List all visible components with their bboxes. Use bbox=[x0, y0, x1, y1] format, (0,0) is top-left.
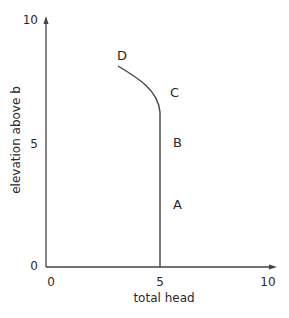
y-axis-arrow-icon bbox=[44, 16, 49, 24]
y-axis-label: elevation above b bbox=[9, 86, 23, 194]
label-c: C bbox=[170, 85, 179, 100]
x-tick-10: 10 bbox=[260, 275, 275, 289]
label-b: B bbox=[173, 135, 182, 150]
x-tick-5: 5 bbox=[156, 275, 164, 289]
chart-canvas: 10 5 0 0 5 10 total head elevation above… bbox=[0, 0, 289, 318]
y-tick-0: 0 bbox=[30, 259, 38, 273]
x-axis-label: total head bbox=[133, 291, 194, 305]
x-tick-0: 0 bbox=[47, 275, 55, 289]
y-tick-5: 5 bbox=[30, 137, 38, 151]
x-axis-arrow-icon bbox=[269, 265, 277, 270]
y-tick-10: 10 bbox=[23, 13, 38, 27]
label-a: A bbox=[173, 197, 182, 212]
head-curve bbox=[118, 66, 160, 267]
label-d: D bbox=[117, 48, 127, 63]
